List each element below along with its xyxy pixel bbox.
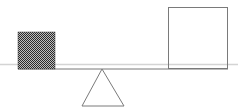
seesaw-diagram bbox=[0, 0, 238, 112]
large-empty-block bbox=[169, 8, 228, 69]
fulcrum-triangle bbox=[82, 69, 124, 106]
heavy-dense-block bbox=[18, 32, 55, 69]
